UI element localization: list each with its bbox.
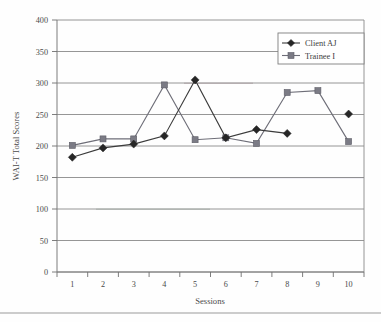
y-tick-label-350: 350 <box>36 48 48 57</box>
x-tick-label-2: 2 <box>101 280 105 289</box>
y-tick-label-100: 100 <box>36 205 48 214</box>
y-tick-label-0: 0 <box>44 268 48 277</box>
y-axis-title: WAI-T Total Scores <box>11 111 21 180</box>
x-axis-title: Sessions <box>195 296 225 306</box>
y-tick-label-400: 400 <box>36 16 48 25</box>
x-tick-label-6: 6 <box>224 280 228 289</box>
x-tick-label-1: 1 <box>70 280 74 289</box>
y-tick-label-200: 200 <box>36 142 48 151</box>
y-tick-label-50: 50 <box>40 237 48 246</box>
y-tick-label-300: 300 <box>36 79 48 88</box>
legend-label-trainee-i: Trainee I <box>305 52 335 61</box>
data-point-trainee-s10 <box>346 139 352 145</box>
square-marker-icon <box>288 53 294 59</box>
chart-legend[interactable]: Client AJ Trainee I <box>278 33 364 64</box>
data-point-trainee-s1 <box>69 142 75 148</box>
data-point-trainee-s8 <box>284 90 290 96</box>
y-tick-label-250: 250 <box>36 111 48 120</box>
data-point-trainee-s2 <box>100 136 106 142</box>
wai-t-total-scores-line-chart: 400 350 300 250 200 150 100 50 0 WAI-T T… <box>0 0 381 322</box>
x-tick-label-3: 3 <box>132 280 136 289</box>
data-point-trainee-s9 <box>315 88 321 94</box>
x-tick-label-10: 10 <box>345 280 353 289</box>
x-tick-label-5: 5 <box>193 280 197 289</box>
data-point-trainee-s4 <box>161 82 167 88</box>
legend-label-client-aj: Client AJ <box>305 39 337 48</box>
x-tick-label-9: 9 <box>316 280 320 289</box>
data-point-trainee-s5 <box>192 137 198 143</box>
x-tick-label-8: 8 <box>285 280 289 289</box>
y-tick-label-150: 150 <box>36 174 48 183</box>
data-point-trainee-s7 <box>254 140 260 146</box>
x-tick-label-7: 7 <box>254 280 258 289</box>
x-tick-label-4: 4 <box>162 280 166 289</box>
chart-figure: 400 350 300 250 200 150 100 50 0 WAI-T T… <box>0 0 381 322</box>
